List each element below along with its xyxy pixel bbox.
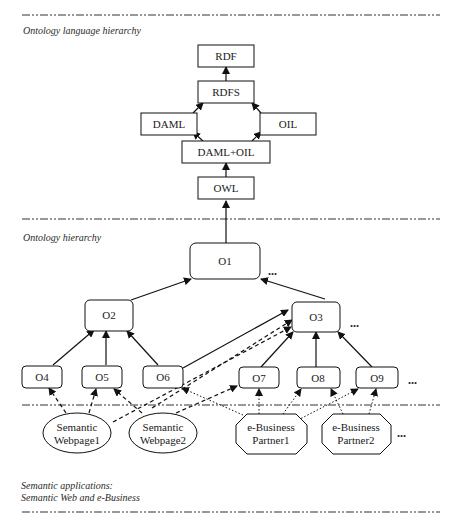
section-label-applications-line2: Semantic Web and e-Business: [21, 492, 140, 504]
node-o1-label: O1: [218, 255, 231, 267]
webpage1-label-line1: Semantic: [57, 421, 98, 433]
node-o9-label: O9: [370, 372, 384, 384]
node-semantic-webpage2: [129, 413, 197, 453]
node-oil-label: OIL: [279, 118, 298, 130]
partner1-label-line2: Partner1: [252, 434, 289, 446]
node-o4-label: O4: [35, 371, 49, 383]
partner1-label-line1: e-Business: [247, 421, 295, 433]
webpage2-label-line2: Webpage2: [140, 434, 186, 446]
partner2-label-line2: Partner2: [337, 434, 374, 446]
node-o6-label: O6: [156, 371, 170, 383]
ellipsis-partners: ...: [397, 426, 406, 440]
partner2-label-line1: e-Business: [332, 421, 380, 433]
node-rdf-label: RDF: [215, 50, 236, 62]
ellipsis-o9: ...: [408, 373, 417, 387]
node-o7-label: O7: [252, 372, 266, 384]
section-label-language: Ontology language hierarchy: [23, 25, 141, 37]
node-daml-oil-label: DAML+OIL: [198, 146, 255, 158]
ontology-diagram: RDF RDFS DAML OIL DAML+OIL OWL O1 O2 O3 …: [0, 0, 455, 531]
webpage2-label-line1: Semantic: [143, 421, 184, 433]
section-label-ontology: Ontology hierarchy: [23, 232, 101, 244]
node-o3-label: O3: [309, 311, 323, 323]
node-semantic-webpage1: [43, 413, 111, 453]
node-daml-label: DAML: [153, 118, 186, 130]
node-rdfs-label: RDFS: [212, 86, 240, 98]
node-o5-label: O5: [95, 371, 109, 383]
node-owl-label: OWL: [213, 182, 238, 194]
section-label-applications-line1: Semantic applications:: [21, 480, 113, 492]
node-o2-label: O2: [102, 309, 115, 321]
node-o8-label: O8: [311, 372, 325, 384]
ellipsis-o1: ...: [268, 264, 277, 278]
ellipsis-o3: ...: [350, 316, 359, 330]
webpage1-label-line2: Webpage1: [54, 434, 100, 446]
